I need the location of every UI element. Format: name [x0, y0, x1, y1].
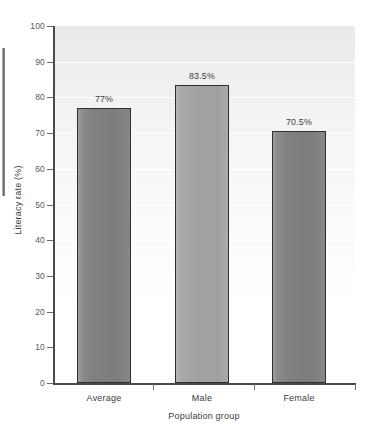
y-tick-label-30: 30: [5, 271, 45, 281]
bar-average: [77, 108, 131, 383]
y-tick-mark-60: [47, 169, 53, 170]
bar-female: [272, 131, 326, 383]
y-tick-mark-50: [47, 205, 53, 206]
y-tick-label-20: 20: [5, 307, 45, 317]
y-tick-label-10: 10: [5, 342, 45, 352]
y-tick-mark-20: [47, 312, 53, 313]
y-tick-label-60: 60: [5, 164, 45, 174]
bar-value-label-average: 77%: [77, 94, 131, 104]
y-tick-mark-40: [47, 240, 53, 241]
y-tick-mark-70: [47, 133, 53, 134]
bar-value-label-male: 83.5%: [175, 71, 229, 81]
page-edge-rule: [2, 48, 5, 196]
bar-value-label-female: 70.5%: [272, 117, 326, 127]
x-category-label-male: Male: [167, 393, 237, 403]
x-axis-line: [53, 383, 356, 385]
x-category-label-average: Average: [69, 393, 139, 403]
literacy-rate-bar-chart: 100 90 80 70 60 50 40 30 20 10 0 77% 83.…: [0, 0, 365, 434]
y-axis-title: Literacy rate (%): [13, 120, 23, 280]
y-tick-label-90: 90: [5, 57, 45, 67]
y-tick-label-0: 0: [5, 378, 45, 388]
y-tick-mark-30: [47, 276, 53, 277]
y-tick-mark-80: [47, 97, 53, 98]
y-tick-mark-0: [47, 383, 53, 384]
bar-male: [175, 85, 229, 383]
x-category-label-female: Female: [264, 393, 334, 403]
y-tick-mark-90: [47, 62, 53, 63]
y-tick-label-100: 100: [5, 21, 45, 31]
y-axis-line: [53, 26, 55, 384]
x-axis-title: Population group: [53, 411, 355, 421]
x-tick-mark-1: [153, 384, 154, 390]
x-tick-mark-2: [254, 384, 255, 390]
y-tick-mark-100: [47, 26, 53, 27]
y-tick-mark-10: [47, 347, 53, 348]
x-tick-mark-3: [355, 384, 356, 390]
y-tick-label-70: 70: [5, 128, 45, 138]
y-tick-label-40: 40: [5, 235, 45, 245]
gridline-90: [53, 62, 355, 63]
y-tick-label-50: 50: [5, 200, 45, 210]
y-tick-label-80: 80: [5, 92, 45, 102]
